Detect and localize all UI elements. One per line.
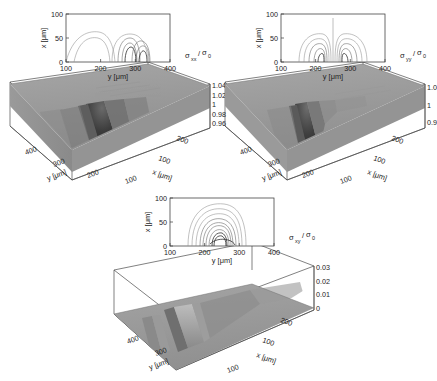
- inset-y-tick-2: 100: [155, 194, 167, 203]
- plot-sigma-yy-svg: 1.04 1 0.96 σ yy / σ 0 400 300 200 100 y…: [215, 0, 437, 198]
- inset-sigma-xy: 100 200 300 400 0 50 100 y [μm] x [μm]: [143, 194, 280, 265]
- inset-x-tick-2: 300: [233, 248, 245, 257]
- x-axis-label-3: x [μm]: [255, 350, 277, 365]
- plot-sigma-xx-svg: 1.04 1.02 1 0.98 0.96 σ xx / σ 0 400 300…: [0, 0, 222, 198]
- inset-y-ticklabels-1: 0 50 100: [51, 10, 63, 67]
- x-tick-0: 200: [390, 133, 404, 146]
- inset-x-tick-1: 200: [310, 64, 322, 73]
- z-label-sub: xy: [295, 238, 301, 244]
- inset-y-tick-0: 0: [163, 242, 167, 251]
- inset-y-ticklabels-3: 0 50 100: [155, 194, 167, 251]
- inset-y-tick-2: 100: [266, 10, 278, 19]
- z-tick-0: 1.04: [427, 83, 437, 92]
- y-axis-label-1: y [μm]: [46, 167, 68, 182]
- z-axis-label-2: σ yy / σ 0: [400, 48, 426, 62]
- inset-x-axis-label-3: y [μm]: [212, 256, 232, 265]
- z-label-sigma: σ: [400, 51, 405, 60]
- y-tick-0: 400: [24, 144, 38, 157]
- x-axis-label-2: x [μm]: [366, 167, 388, 182]
- inset-y-ticklabels-2: 0 50 100: [266, 10, 278, 67]
- inset-y-tick-1: 50: [159, 218, 167, 227]
- z-ticks-2: 1.04 1 0.96: [427, 83, 437, 127]
- z-label-slash: /: [198, 49, 201, 58]
- x-ticks-1: 200 100: [157, 133, 189, 166]
- z-tick-0: 0.03: [316, 263, 330, 272]
- inset-x-tick-1: 200: [199, 248, 211, 257]
- inset-y-tick-0: 0: [59, 58, 63, 67]
- inset-x-axis-label-2: y [μm]: [323, 72, 343, 81]
- y-axis-label-3: y [μm]: [148, 356, 170, 371]
- y-axis-label-2: y [μm]: [261, 167, 283, 182]
- inset-y-tick-1: 50: [270, 34, 278, 43]
- surface-sigma-xy: [114, 282, 314, 370]
- y-tick-2: 200: [301, 167, 315, 180]
- inset-y-tick-0: 0: [274, 58, 278, 67]
- x-tick-1: 100: [372, 153, 386, 166]
- z-label-den: σ: [306, 230, 311, 239]
- inset-x-tick-3: 400: [379, 64, 391, 73]
- inset-y-axis-label-1: x [μm]: [39, 28, 48, 48]
- inset-x-tick-2: 300: [344, 64, 356, 73]
- z-tick-2: 0.96: [427, 118, 437, 127]
- z-ticks-3: 0.03 0.02 0.01 0: [316, 263, 330, 313]
- z-label-sigma: σ: [185, 51, 190, 60]
- z-label-slash: /: [302, 231, 305, 240]
- z-axis-label-3: σ xy / σ 0: [289, 230, 315, 244]
- panel-sigma-yy: 1.04 1 0.96 σ yy / σ 0 400 300 200 100 y…: [215, 0, 437, 198]
- z-label-slash: /: [413, 49, 416, 58]
- z-label-den-sub: 0: [312, 235, 315, 241]
- inset-x-tick-1: 200: [95, 64, 107, 73]
- x-ticks-2: 200 100: [372, 133, 404, 166]
- inset-y-axis-label-2: x [μm]: [254, 28, 263, 48]
- z-label-den-sub: 0: [423, 53, 426, 59]
- inset-x-tick-3: 400: [164, 64, 176, 73]
- y-tick-3: 100: [339, 173, 353, 186]
- x-tick-1: 100: [157, 153, 171, 166]
- x-tick-0: 200: [175, 133, 189, 146]
- z-label-sub: yy: [406, 56, 412, 62]
- z-label-den: σ: [417, 48, 422, 57]
- z-label-sigma: σ: [289, 233, 294, 242]
- y-tick-3: 100: [124, 173, 138, 186]
- y-tick-2: 100: [226, 362, 240, 375]
- z-tick-3: 0: [316, 304, 320, 313]
- y-tick-0: 400: [239, 144, 253, 157]
- y-tick-2: 200: [86, 167, 100, 180]
- z-tick-1: 1: [427, 101, 431, 110]
- z-tick-2: 0.01: [316, 290, 330, 299]
- panel-sigma-xx: 1.04 1.02 1 0.98 0.96 σ xx / σ 0 400 300…: [0, 0, 222, 198]
- inset-x-tick-3: 400: [268, 248, 280, 257]
- z-axis-label-1: σ xx / σ 0: [185, 48, 211, 62]
- inset-y-tick-1: 50: [55, 34, 63, 43]
- inset-y-tick-2: 100: [51, 10, 63, 19]
- x-tick-1: 100: [261, 335, 275, 348]
- z-label-den-sub: 0: [208, 53, 211, 59]
- inset-y-axis-label-3: x [μm]: [143, 212, 152, 232]
- z-label-sub: xx: [191, 56, 197, 62]
- panel-sigma-xy: 0.03 0.02 0.01 0 σ xy / σ 0 400 300 100 …: [100, 192, 330, 381]
- inset-x-tick-2: 300: [129, 64, 141, 73]
- inset-x-axis-label-1: y [μm]: [108, 72, 128, 81]
- plot-sigma-xy-svg: 0.03 0.02 0.01 0 σ xy / σ 0 400 300 100 …: [100, 192, 330, 381]
- x-axis-label-1: x [μm]: [151, 167, 173, 182]
- z-label-den: σ: [202, 48, 207, 57]
- z-tick-1: 0.02: [316, 277, 330, 286]
